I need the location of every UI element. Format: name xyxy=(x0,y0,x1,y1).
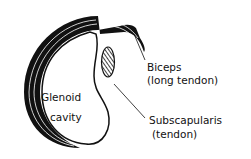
subscapularis-leader-line xyxy=(114,84,145,118)
glenoid-label-line2: cavity xyxy=(50,112,82,123)
biceps-label-line1: Biceps xyxy=(147,62,182,73)
subscapularis-tendon xyxy=(102,47,115,77)
biceps-label-line2: (long tendon) xyxy=(147,75,218,86)
glenoid-label-line1: Glenoid xyxy=(41,92,81,103)
subscapularis-label-line1: Subscapularis xyxy=(149,115,222,126)
subscapularis-label-line2: (tendon) xyxy=(152,129,197,140)
